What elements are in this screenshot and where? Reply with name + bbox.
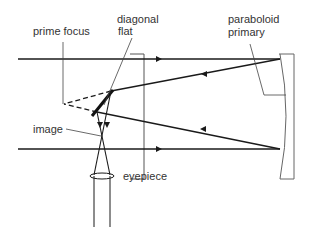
prime-focus-label: prime focus [33,25,90,37]
paraboloid-primary-mirror [130,54,144,179]
primary-mirror-shape [279,54,294,179]
dashed-ray-bottom [64,104,97,112]
paraboloid-label-line2: primary [228,26,265,38]
diagonal-flat-label-line2: flat [118,25,133,37]
paraboloid-label-line1: paraboloid [228,13,279,25]
image-leader [66,129,101,136]
arrow-icon [97,122,103,128]
arrow-icon [200,126,206,132]
eyepiece-label: eyepiece [123,170,167,182]
arrow-icon [156,56,162,62]
arrow-icon [156,146,162,152]
reflected-ray-top [111,59,280,91]
newtonian-telescope-diagram: prime focus diagonal flat paraboloid pri… [0,0,311,236]
reflected-ray-bottom [97,112,280,149]
diagonal-flat-leader [104,38,132,105]
paraboloid-leader [250,44,286,95]
diagonal-flat-label-line1: diagonal [117,13,159,25]
eyepiece-ray-right [97,112,110,175]
image-label: image [33,123,63,135]
arrow-icon [104,122,110,128]
arrow-icon [201,71,207,77]
